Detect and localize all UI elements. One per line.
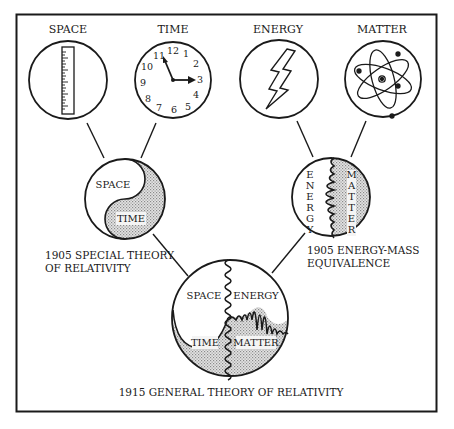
time-concept: TIME 12 1 2 3 4 5 6 7 8 9 10 11 bbox=[135, 23, 211, 118]
time-label: TIME bbox=[158, 23, 189, 36]
clock-hands bbox=[163, 56, 196, 84]
svg-text:E: E bbox=[348, 213, 355, 224]
gr-space-label: SPACE bbox=[187, 290, 222, 301]
general-relativity-node: SPACE ENERGY TIME MATTER 1915 GENERAL TH… bbox=[119, 260, 345, 398]
space-concept: SPACE bbox=[29, 23, 107, 119]
gr-matter-label: MATTER bbox=[233, 337, 279, 348]
matter-concept: MATTER bbox=[345, 23, 421, 118]
svg-text:G: G bbox=[306, 213, 314, 224]
svg-text:N: N bbox=[306, 180, 315, 191]
svg-text:M: M bbox=[346, 169, 356, 180]
matter-label: MATTER bbox=[357, 23, 408, 36]
gr-energy-label: ENERGY bbox=[233, 290, 279, 301]
clock-icon: 12 1 2 3 4 5 6 7 8 9 10 11 bbox=[140, 45, 203, 115]
svg-text:E: E bbox=[306, 191, 313, 202]
svg-text:R: R bbox=[306, 202, 314, 213]
general-relativity-caption: 1915 GENERAL THEORY OF RELATIVITY bbox=[119, 386, 345, 398]
sr-time-label: TIME bbox=[117, 213, 145, 224]
svg-text:2: 2 bbox=[193, 58, 199, 69]
svg-text:8: 8 bbox=[145, 93, 151, 104]
svg-text:T: T bbox=[348, 191, 355, 202]
svg-text:12: 12 bbox=[167, 45, 179, 56]
svg-text:3: 3 bbox=[197, 74, 203, 85]
special-relativity-node: SPACE TIME 1905 SPECIAL THEORY OF RELATI… bbox=[45, 159, 175, 274]
svg-text:5: 5 bbox=[185, 101, 191, 112]
energy-mass-node: E N E R G Y M A T T E R 1905 ENERGY-MASS… bbox=[292, 158, 420, 269]
svg-text:T: T bbox=[348, 202, 355, 213]
energy-label: ENERGY bbox=[253, 23, 304, 36]
svg-text:4: 4 bbox=[193, 89, 199, 100]
svg-text:E: E bbox=[306, 169, 313, 180]
sr-space-label: SPACE bbox=[96, 179, 131, 190]
svg-text:7: 7 bbox=[156, 102, 162, 113]
energy-mass-caption-line2: EQUIVALENCE bbox=[307, 257, 390, 269]
svg-text:9: 9 bbox=[140, 77, 146, 88]
ruler-icon bbox=[62, 47, 74, 114]
svg-text:Y: Y bbox=[306, 224, 314, 235]
atom-icon bbox=[351, 47, 415, 118]
lightning-bolt-icon bbox=[266, 49, 295, 109]
energy-concept: ENERGY bbox=[240, 23, 318, 118]
special-relativity-caption-line2: OF RELATIVITY bbox=[45, 262, 132, 274]
special-relativity-caption-line1: 1905 SPECIAL THEORY bbox=[45, 249, 175, 261]
energy-mass-caption-line1: 1905 ENERGY-MASS bbox=[307, 244, 420, 256]
svg-text:10: 10 bbox=[141, 61, 153, 72]
svg-text:A: A bbox=[347, 180, 356, 191]
em-energy-vertical-label: E N E R G Y bbox=[306, 169, 315, 235]
space-label: SPACE bbox=[49, 23, 87, 36]
svg-text:1: 1 bbox=[183, 48, 189, 59]
relativity-concept-diagram: SPACE TIME 12 1 2 3 bbox=[0, 0, 454, 429]
gr-time-label: TIME bbox=[191, 337, 219, 348]
svg-text:R: R bbox=[348, 224, 356, 235]
svg-text:6: 6 bbox=[171, 104, 177, 115]
